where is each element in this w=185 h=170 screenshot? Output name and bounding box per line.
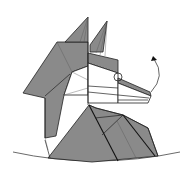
rotate-arrow-icon xyxy=(151,56,159,92)
fox-ear-right xyxy=(90,21,107,56)
origami-diagram: Rotate snout up at the marked pivot poin… xyxy=(0,0,185,170)
fox-body xyxy=(45,105,158,162)
fox-ear-left xyxy=(65,17,88,42)
fox-diagram-svg xyxy=(0,0,185,170)
